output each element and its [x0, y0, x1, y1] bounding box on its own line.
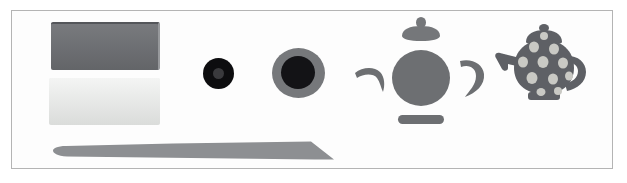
polka-dot-teapot-shape — [494, 24, 594, 110]
large-disc-shape — [272, 48, 325, 98]
teapot-base-part — [398, 115, 444, 124]
exploded-teapot-shape — [352, 16, 490, 128]
teapot-lid-part — [402, 26, 440, 41]
tapered-blade-shape — [53, 137, 334, 160]
teapot-body-part — [392, 50, 450, 106]
teapot-handle-part — [460, 60, 484, 97]
teapot-spout-part — [355, 68, 384, 92]
small-disc-shape — [203, 58, 234, 89]
image-canvas — [0, 0, 627, 183]
dark-block-shape — [51, 22, 160, 70]
teapot-knob — [539, 24, 549, 32]
light-block-shape — [49, 78, 160, 125]
